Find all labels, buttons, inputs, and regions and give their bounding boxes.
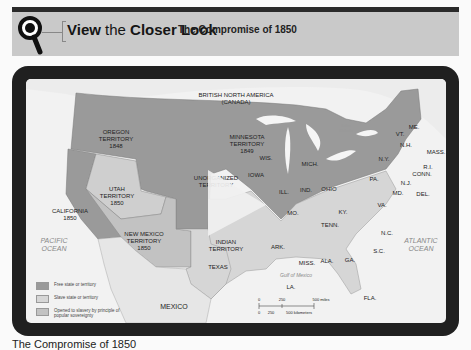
label-utah-1: UTAH (109, 186, 125, 192)
label-mo: MO. (287, 210, 299, 216)
label-wis: WIS. (260, 155, 273, 161)
label-del: DEL. (416, 191, 430, 197)
label-atlantic-2: OCEAN (409, 245, 435, 252)
label-oregon-1: OREGON (103, 129, 130, 135)
label-utah-3: 1850 (110, 200, 124, 206)
legend-label-free: Free state or territory (54, 282, 124, 287)
legend-item-free: Free state or territory (36, 282, 124, 290)
legend-item-popular: Opened to slavery by principle of popula… (36, 308, 124, 318)
scale-km-500: 500 kilometers (286, 310, 312, 315)
label-ind: IND. (300, 187, 312, 193)
header-bracket (62, 21, 66, 42)
label-texas: TEXAS (208, 264, 228, 270)
label-oregon-3: 1848 (109, 143, 123, 149)
label-pacific-2: OCEAN (42, 245, 68, 252)
label-utah-2: TERRITORY (100, 193, 134, 199)
video-player[interactable]: BRITISH NORTH AMERICA (CANADA) OREGON TE… (12, 66, 459, 336)
legend-swatch-free (36, 282, 49, 290)
scale-km-250: 250 (268, 310, 275, 315)
label-ill: ILL. (279, 189, 289, 195)
label-ala: ALA. (320, 258, 333, 264)
label-fla: FLA. (364, 295, 377, 301)
label-mexico: MEXICO (160, 303, 188, 310)
label-new-mexico-1: NEW MEXICO (124, 231, 164, 237)
legend-label-slave: Slave state or territory (54, 295, 124, 300)
legend-item-slave: Slave state or territory (36, 295, 124, 303)
label-ga: GA. (345, 257, 356, 263)
label-ohio: OHIO (321, 186, 337, 192)
label-pa: PA. (369, 176, 379, 182)
label-minnesota-1: MINNESOTA (229, 134, 264, 140)
label-minnesota-2: TERRITORY (230, 141, 264, 147)
label-md: MD. (393, 190, 404, 196)
label-pacific-1: PACIFIC (40, 237, 68, 244)
label-nc: N.C. (381, 230, 393, 236)
label-sc: S.C. (373, 248, 385, 254)
label-canada: BRITISH NORTH AMERICA (198, 92, 273, 98)
label-oregon-2: TERRITORY (99, 136, 133, 142)
label-new-mexico-3: 1850 (137, 245, 151, 251)
label-california-1: CALIFORNIA (52, 208, 88, 214)
legend-label-popular: Opened to slavery by principle of popula… (54, 308, 124, 318)
label-va: VA. (377, 202, 387, 208)
title-the: the (101, 21, 130, 38)
magnifier-icon (16, 14, 52, 58)
label-me: ME. (409, 124, 420, 130)
label-ark: ARK. (271, 244, 285, 250)
label-gulf: Gulf of Mexico (280, 272, 312, 278)
header-subtitle: The Compromise of 1850 (178, 24, 297, 35)
label-lake-ontario-2: Ontario (339, 128, 353, 133)
scale-mi-500: 500 miles (312, 297, 329, 302)
label-tenn: TENN. (321, 222, 339, 228)
title-view: View (67, 21, 101, 38)
label-indian-1: INDIAN (216, 239, 236, 245)
label-minnesota-3: 1849 (240, 148, 254, 154)
label-iowa: IOWA (248, 172, 264, 178)
label-mich: MICH. (302, 161, 319, 167)
label-conn: CONN. (412, 171, 432, 177)
map-legend: Free state or territory Slave state or t… (36, 282, 124, 323)
label-la: LA. (286, 284, 295, 290)
label-ky: KY. (339, 209, 348, 215)
label-nh: N.H. (400, 142, 412, 148)
label-mass: MASS. (427, 149, 446, 155)
scale-mi-0: 0 (258, 297, 261, 302)
scale-km-0: 0 (258, 310, 261, 315)
scale-mi-250: 250 (279, 297, 286, 302)
scale-bar: 0 250 500 miles 0 250 500 kilometers (258, 297, 330, 315)
label-miss: MISS. (299, 260, 316, 266)
label-nj: N.J. (401, 180, 412, 186)
label-ny: N.Y. (379, 156, 390, 162)
closer-look-header: View the Closer Look The Compromise of 1… (12, 7, 459, 56)
label-atlantic-1: ATLANTIC (403, 237, 438, 244)
legend-swatch-popular (36, 308, 49, 316)
label-indian-2: TERRITORY (209, 246, 243, 252)
label-california-2: 1850 (63, 215, 77, 221)
figure-caption: The Compromise of 1850 (12, 338, 136, 350)
label-canada-sub: (CANADA) (221, 99, 250, 105)
label-vt: VT. (396, 131, 405, 137)
label-new-mexico-2: TERRITORY (127, 238, 161, 244)
legend-swatch-slave (36, 295, 49, 303)
label-ri: R.I. (423, 164, 433, 170)
map-canvas[interactable]: BRITISH NORTH AMERICA (CANADA) OREGON TE… (26, 79, 446, 323)
header-connector (42, 32, 62, 33)
